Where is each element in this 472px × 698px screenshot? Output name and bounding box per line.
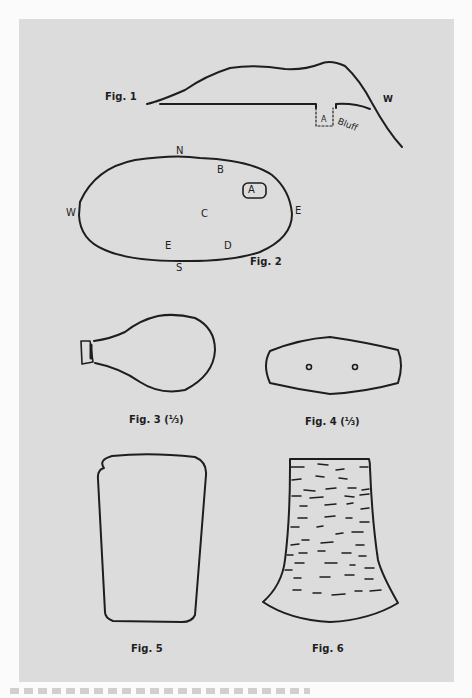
fig3-label: Fig. 3 (⅓) [129, 414, 184, 425]
fig4-gorget-outline [266, 337, 401, 394]
cropped-caption-text [10, 688, 310, 694]
fig1-marker-a: A [321, 115, 326, 124]
fig2-point-a: A [248, 184, 255, 195]
fig6-axe-outline [263, 459, 398, 622]
fig3-pendant-outline [81, 315, 215, 392]
fig2-label: Fig. 2 [250, 256, 282, 267]
fig2-site-plan [79, 156, 292, 261]
fig2-compass-south: S [176, 262, 182, 273]
fig2-compass-north: N [176, 145, 183, 156]
fig1-marker-w: W [383, 94, 393, 104]
fig2-point-c: C [201, 208, 208, 219]
fig2-point-d: D [224, 240, 232, 251]
fig2-point-e: E [165, 240, 171, 251]
fig2-compass-east: E [295, 205, 301, 216]
fig2-point-b: B [217, 164, 224, 175]
fig4-label: Fig. 4 (⅓) [305, 416, 360, 427]
fig5-celt-outline [98, 454, 206, 622]
plate-drawings [19, 19, 454, 682]
fig6-label: Fig. 6 [312, 643, 344, 654]
fig1-mound-profile [147, 62, 402, 147]
fig2-compass-west: W [66, 207, 76, 218]
fig1-label: Fig. 1 [105, 91, 137, 102]
figure-plate: Fig. 1 A W Bluff N S E W B A C E D Fig. … [19, 19, 454, 682]
fig5-label: Fig. 5 [131, 643, 163, 654]
